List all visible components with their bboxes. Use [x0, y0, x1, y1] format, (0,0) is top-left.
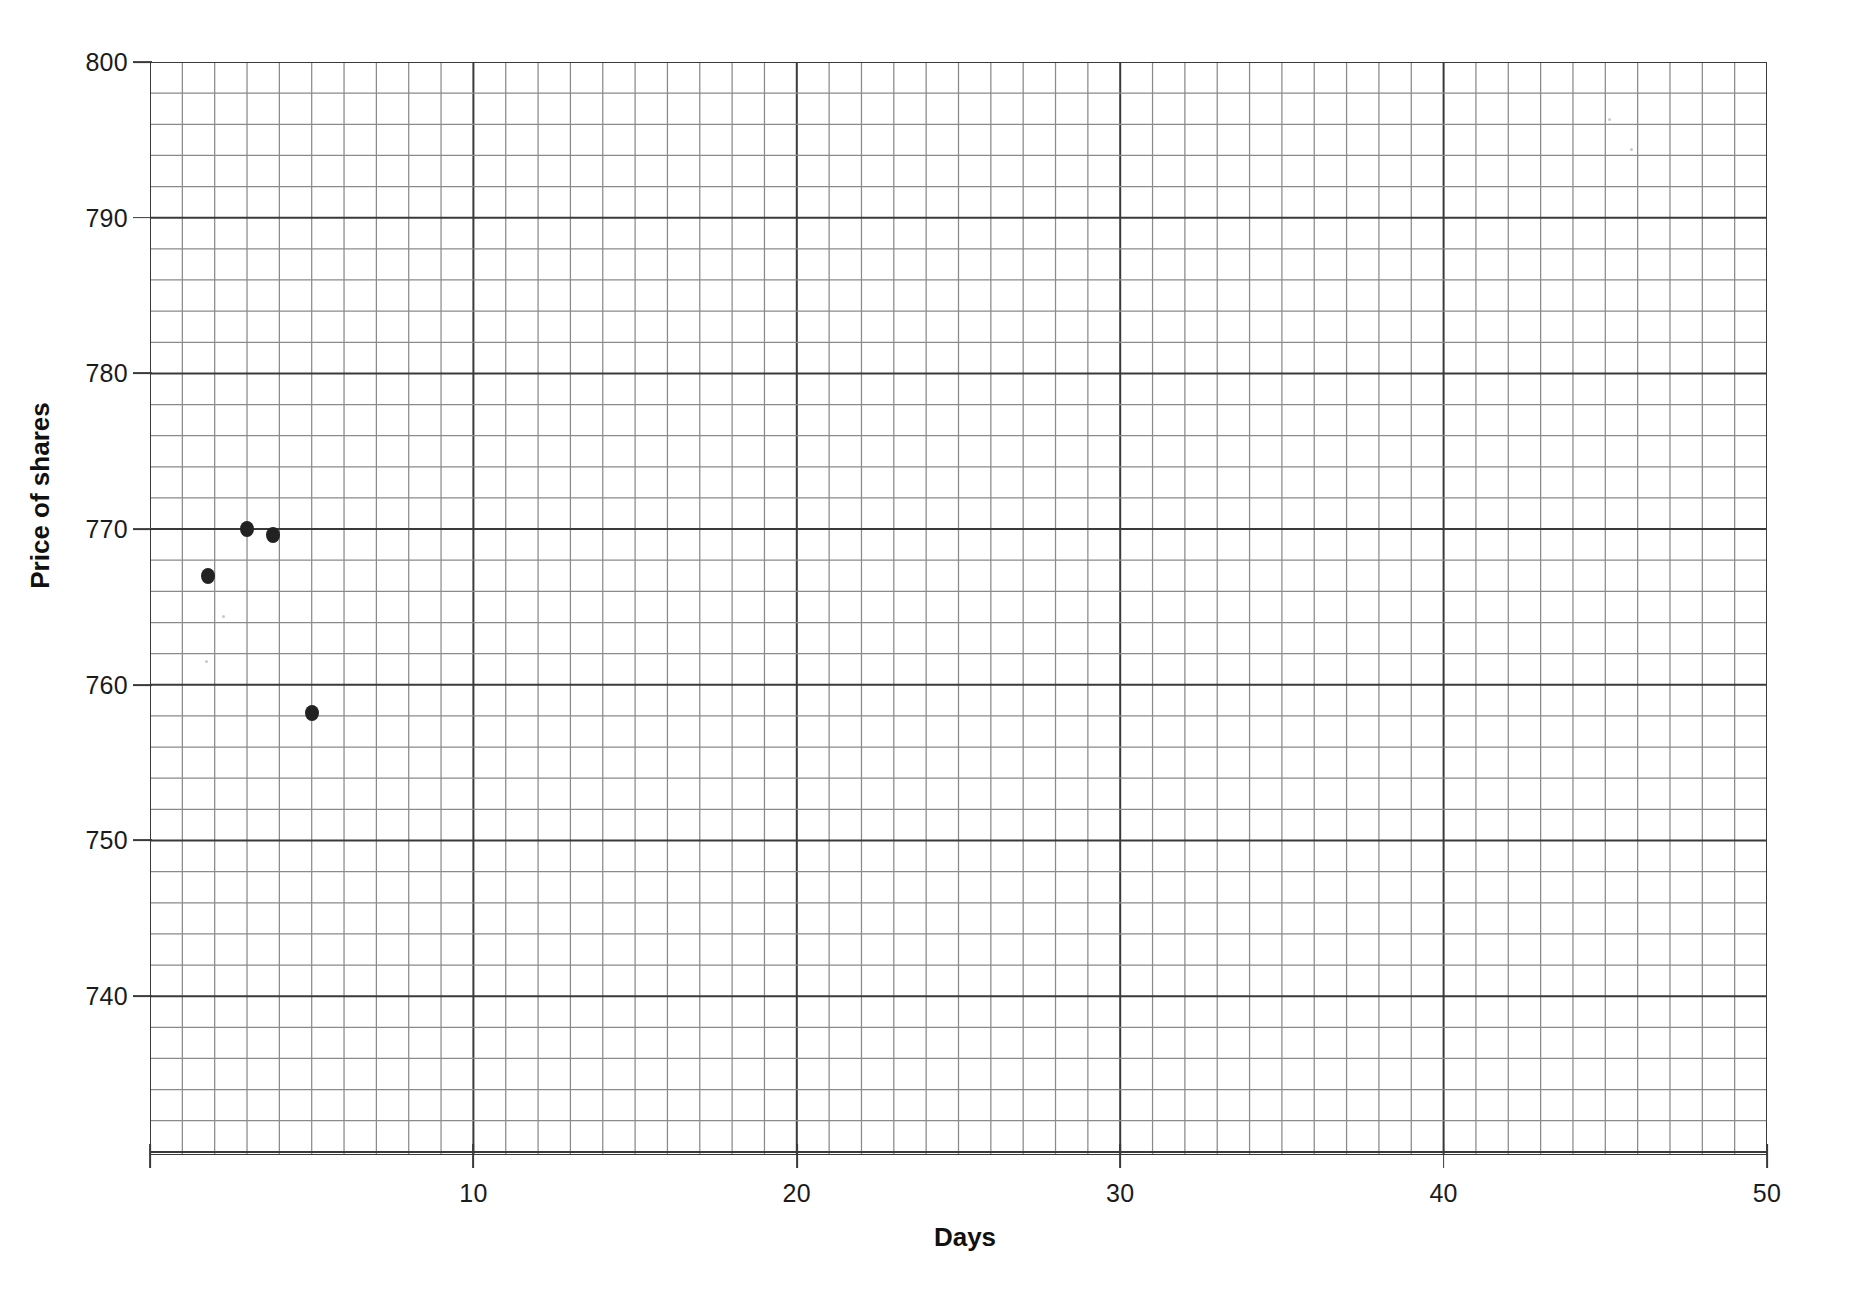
y-tick-mark — [133, 995, 152, 997]
y-tick-label: 790 — [85, 203, 128, 232]
y-tick-label: 770 — [85, 515, 128, 544]
y-tick-mark — [133, 61, 152, 63]
y-axis: 800790780770760750740 — [0, 0, 150, 1297]
scan-speck — [1630, 148, 1633, 151]
x-tick-label: 30 — [1106, 1179, 1134, 1208]
y-axis-title-text: Price of shares — [25, 402, 55, 588]
x-tick-label: 10 — [459, 1179, 487, 1208]
data-point — [240, 521, 254, 537]
y-axis-title: Price of shares — [25, 216, 56, 776]
y-tick-mark — [133, 217, 152, 219]
plot-area — [150, 62, 1767, 1155]
plot-border — [150, 62, 1767, 1155]
x-tick-label: 40 — [1429, 1179, 1457, 1208]
x-axis-title-text: Days — [934, 1222, 996, 1252]
scan-speck — [1608, 118, 1611, 121]
y-tick-label: 780 — [85, 359, 128, 388]
x-tick-label: 20 — [783, 1179, 811, 1208]
x-tick-mark — [472, 1144, 474, 1168]
x-tick-mark — [1119, 1144, 1121, 1168]
data-point — [266, 527, 280, 543]
y-tick-label: 740 — [85, 982, 128, 1011]
y-tick-mark — [133, 684, 152, 686]
y-tick-label: 750 — [85, 826, 128, 855]
scan-speck — [222, 615, 225, 618]
scan-speck — [205, 660, 208, 663]
gridlines — [150, 62, 1767, 1155]
x-tick-mark — [149, 1144, 151, 1168]
y-tick-label: 800 — [85, 48, 128, 77]
y-tick-mark — [133, 372, 152, 374]
y-tick-mark — [133, 840, 152, 842]
data-point — [201, 568, 215, 584]
x-axis: 1020304050 — [0, 1155, 1876, 1215]
x-tick-mark — [1766, 1144, 1768, 1168]
x-tick-mark — [796, 1144, 798, 1168]
x-tick-mark — [1443, 1144, 1445, 1168]
x-axis-title: Days — [0, 1222, 1876, 1253]
scatter-chart: 800790780770760750740 1020304050 Days Pr… — [0, 0, 1876, 1297]
y-tick-mark — [133, 528, 152, 530]
data-point — [305, 705, 319, 721]
y-tick-label: 760 — [85, 670, 128, 699]
x-tick-label: 50 — [1753, 1179, 1781, 1208]
